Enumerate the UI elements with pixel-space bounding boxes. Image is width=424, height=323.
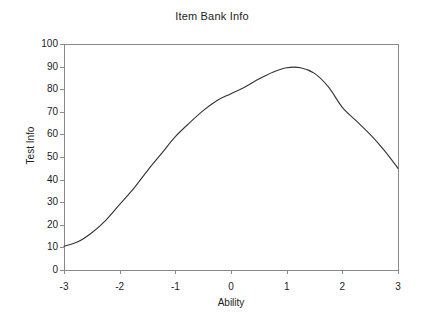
plot-canvas [0,0,424,323]
series-line-item-bank-info [64,67,398,246]
chart-container: Item Bank Info Test Info Ability 0102030… [0,0,424,323]
data-series-group [64,67,398,246]
axis-tick-marks [60,45,399,275]
axis-frame [64,44,398,270]
